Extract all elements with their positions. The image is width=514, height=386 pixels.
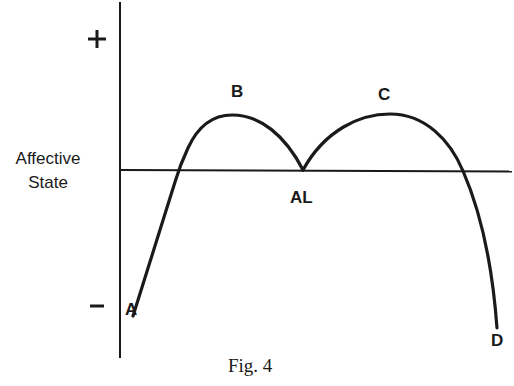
y-axis-label-line2: State	[0, 171, 96, 195]
y-axis-label-line1: Affective	[0, 147, 96, 171]
figure-caption: Fig. 4	[228, 355, 272, 377]
point-label-a: A	[125, 300, 137, 320]
point-label-al: AL	[290, 188, 313, 208]
y-axis-label: Affective State	[0, 147, 96, 195]
affect-curve-al-to-d	[303, 114, 497, 328]
point-label-b: B	[231, 82, 243, 102]
point-label-d: D	[491, 331, 503, 351]
point-label-c: C	[378, 85, 390, 105]
affect-curve-a-to-al	[133, 115, 303, 316]
